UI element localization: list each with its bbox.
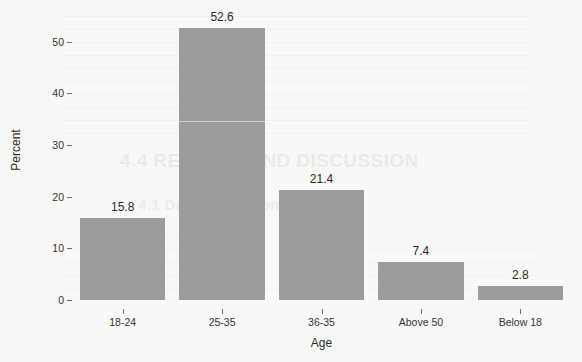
bar-group: 21.4: [279, 16, 364, 300]
bar-group: 2.8: [478, 16, 563, 300]
scan-line-artifact: [179, 121, 264, 122]
bar-value-label: 15.8: [66, 201, 179, 214]
x-tick-mark: [520, 309, 521, 314]
y-tick-mark: [67, 300, 72, 301]
y-axis-title: Percent: [4, 0, 28, 300]
bar-group: 15.8: [80, 16, 165, 300]
bar-value-label: 7.4: [364, 245, 477, 258]
y-tick-label: 50: [26, 35, 64, 49]
y-tick-label: 20: [26, 190, 64, 204]
x-tick-label: Below 18: [460, 316, 580, 328]
x-axis-title: Age: [73, 336, 570, 350]
y-tick-mark: [67, 145, 72, 146]
bar[interactable]: [378, 262, 463, 300]
plot-area: 15.852.621.47.42.8: [73, 16, 570, 300]
y-tick-label: 30: [26, 138, 64, 152]
bar-group: 7.4: [378, 16, 463, 300]
y-tick-label: 40: [26, 86, 64, 100]
y-tick-mark: [67, 197, 72, 198]
y-tick-mark: [67, 248, 72, 249]
bar-value-label: 2.8: [464, 269, 577, 282]
y-axis-title-label: Percent: [9, 129, 23, 170]
bar[interactable]: [478, 286, 563, 300]
bar[interactable]: [279, 190, 364, 301]
x-tick-mark: [421, 309, 422, 314]
bar-chart: Percent 01020304050 15.852.621.47.42.8 1…: [0, 0, 582, 362]
x-tick-mark: [123, 309, 124, 314]
bar[interactable]: [80, 218, 165, 300]
x-tick-mark: [322, 309, 323, 314]
y-tick-label: 10: [26, 241, 64, 255]
bar-value-label: 21.4: [265, 173, 378, 186]
y-tick-mark: [67, 42, 72, 43]
bar-group: 52.6: [179, 16, 264, 300]
y-tick-mark: [67, 93, 72, 94]
y-tick-label: 0: [26, 293, 64, 307]
chart-screenshot: 4.4 RESULTS AND DISCUSSION 4.1 Data Coll…: [0, 0, 582, 362]
bar-value-label: 52.6: [165, 11, 278, 24]
bar[interactable]: [179, 28, 264, 300]
x-tick-mark: [222, 309, 223, 314]
